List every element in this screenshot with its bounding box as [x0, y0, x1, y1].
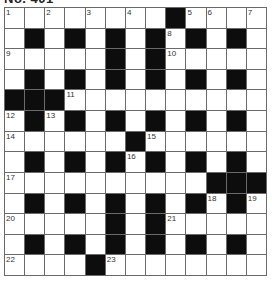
grid-cell[interactable] [86, 214, 105, 234]
grid-cell[interactable] [45, 235, 64, 255]
grid-cell[interactable] [207, 255, 226, 275]
grid-cell[interactable] [5, 29, 24, 49]
grid-cell[interactable] [186, 132, 205, 152]
grid-cell[interactable] [65, 173, 84, 193]
grid-cell[interactable]: 4 [126, 8, 145, 28]
grid-cell[interactable] [86, 49, 105, 69]
grid-cell[interactable] [247, 132, 266, 152]
grid-cell[interactable] [126, 49, 145, 69]
grid-cell[interactable] [45, 70, 64, 90]
grid-cell[interactable] [186, 255, 205, 275]
grid-cell[interactable] [5, 70, 24, 90]
grid-cell[interactable] [5, 194, 24, 214]
grid-cell[interactable]: 9 [5, 49, 24, 69]
grid-cell[interactable] [45, 132, 64, 152]
grid-cell[interactable] [146, 90, 165, 110]
grid-cell[interactable] [146, 8, 165, 28]
grid-cell[interactable] [25, 214, 44, 234]
grid-cell[interactable]: 8 [166, 29, 185, 49]
grid-cell[interactable] [227, 8, 246, 28]
grid-cell[interactable]: 11 [65, 90, 84, 110]
grid-cell[interactable] [65, 132, 84, 152]
grid-cell[interactable] [65, 8, 84, 28]
grid-cell[interactable] [106, 173, 125, 193]
grid-cell[interactable]: 16 [126, 152, 145, 172]
grid-cell[interactable] [247, 70, 266, 90]
grid-cell[interactable] [186, 90, 205, 110]
grid-cell[interactable] [207, 132, 226, 152]
grid-cell[interactable] [227, 214, 246, 234]
grid-cell[interactable] [247, 29, 266, 49]
grid-cell[interactable] [25, 132, 44, 152]
grid-cell[interactable] [25, 173, 44, 193]
grid-cell[interactable] [247, 90, 266, 110]
grid-cell[interactable]: 21 [166, 214, 185, 234]
grid-cell[interactable] [86, 90, 105, 110]
grid-cell[interactable] [126, 111, 145, 131]
grid-cell[interactable]: 12 [5, 111, 24, 131]
grid-cell[interactable] [86, 152, 105, 172]
grid-cell[interactable] [247, 214, 266, 234]
grid-cell[interactable] [186, 49, 205, 69]
grid-cell[interactable] [166, 132, 185, 152]
grid-cell[interactable] [45, 29, 64, 49]
grid-cell[interactable] [166, 152, 185, 172]
grid-cell[interactable] [5, 235, 24, 255]
grid-cell[interactable] [126, 70, 145, 90]
grid-cell[interactable] [207, 49, 226, 69]
grid-cell[interactable]: 3 [86, 8, 105, 28]
grid-cell[interactable]: 18 [207, 194, 226, 214]
grid-cell[interactable]: 14 [5, 132, 24, 152]
grid-cell[interactable] [45, 214, 64, 234]
grid-cell[interactable] [86, 111, 105, 131]
grid-cell[interactable]: 1 [5, 8, 24, 28]
grid-cell[interactable]: 13 [45, 111, 64, 131]
grid-cell[interactable]: 22 [5, 255, 24, 275]
grid-cell[interactable]: 10 [166, 49, 185, 69]
grid-cell[interactable] [166, 194, 185, 214]
grid-cell[interactable]: 5 [186, 8, 205, 28]
grid-cell[interactable]: 15 [146, 132, 165, 152]
grid-cell[interactable] [227, 49, 246, 69]
grid-cell[interactable] [207, 214, 226, 234]
grid-cell[interactable] [86, 235, 105, 255]
grid-cell[interactable] [166, 235, 185, 255]
grid-cell[interactable] [25, 8, 44, 28]
grid-cell[interactable] [207, 111, 226, 131]
grid-cell[interactable] [5, 152, 24, 172]
grid-cell[interactable] [86, 132, 105, 152]
grid-cell[interactable] [186, 214, 205, 234]
grid-cell[interactable] [146, 173, 165, 193]
grid-cell[interactable] [45, 173, 64, 193]
grid-cell[interactable] [65, 255, 84, 275]
grid-cell[interactable] [247, 152, 266, 172]
grid-cell[interactable]: 23 [106, 255, 125, 275]
grid-cell[interactable] [126, 214, 145, 234]
grid-cell[interactable] [207, 235, 226, 255]
grid-cell[interactable] [45, 49, 64, 69]
grid-cell[interactable] [146, 255, 165, 275]
grid-cell[interactable] [45, 194, 64, 214]
grid-cell[interactable] [106, 90, 125, 110]
grid-cell[interactable] [86, 194, 105, 214]
grid-cell[interactable] [166, 70, 185, 90]
grid-cell[interactable] [25, 49, 44, 69]
grid-cell[interactable] [166, 111, 185, 131]
grid-cell[interactable]: 17 [5, 173, 24, 193]
grid-cell[interactable] [86, 173, 105, 193]
grid-cell[interactable] [166, 255, 185, 275]
grid-cell[interactable] [247, 49, 266, 69]
grid-cell[interactable] [247, 255, 266, 275]
grid-cell[interactable] [126, 194, 145, 214]
grid-cell[interactable]: 20 [5, 214, 24, 234]
grid-cell[interactable] [227, 255, 246, 275]
grid-cell[interactable] [166, 173, 185, 193]
grid-cell[interactable] [166, 90, 185, 110]
grid-cell[interactable] [45, 255, 64, 275]
grid-cell[interactable] [126, 29, 145, 49]
grid-cell[interactable] [126, 173, 145, 193]
grid-cell[interactable] [25, 255, 44, 275]
grid-cell[interactable] [247, 235, 266, 255]
grid-cell[interactable] [207, 152, 226, 172]
grid-cell[interactable] [186, 173, 205, 193]
